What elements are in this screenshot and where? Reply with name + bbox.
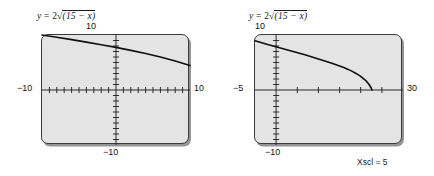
xscl-note: Xscl = 5 <box>357 157 387 167</box>
plot-area-right <box>255 35 401 143</box>
calculator-screen-right <box>254 34 402 144</box>
equation-radicand-left: (15 − x) <box>62 10 96 21</box>
curve-right <box>255 41 372 90</box>
axis-label-left-right: −5 <box>233 84 243 93</box>
plot-area-left <box>42 35 188 143</box>
panel-left: y = 2√(15 − x) <box>0 0 217 176</box>
calculator-screen-left <box>41 34 189 144</box>
axis-label-right-right: 30 <box>407 84 417 93</box>
axis-label-top-left: 10 <box>86 22 96 31</box>
axis-label-top-right: 10 <box>255 22 265 31</box>
axis-label-right-left: 10 <box>194 84 204 93</box>
graphing-calculator-figure: y = 2√(15 − x) <box>0 0 434 176</box>
equation-lhs-right: y <box>249 11 253 21</box>
panel-right: y = 2√(15 − x) <box>217 0 434 176</box>
axis-label-bottom-left: −10 <box>103 148 118 157</box>
equation-label-right: y = 2√(15 − x) <box>249 10 307 21</box>
axis-label-bottom-right: −10 <box>265 148 280 157</box>
equation-label-left: y = 2√(15 − x) <box>37 10 95 21</box>
equation-radicand-right: (15 − x) <box>274 10 308 21</box>
equation-equals-right: = <box>256 11 262 21</box>
plot-svg-right <box>255 35 403 145</box>
equation-equals-left: = <box>44 11 50 21</box>
equation-lhs-left: y <box>37 11 41 21</box>
axis-label-left-left: −10 <box>17 84 32 93</box>
plot-svg-left <box>42 35 190 145</box>
